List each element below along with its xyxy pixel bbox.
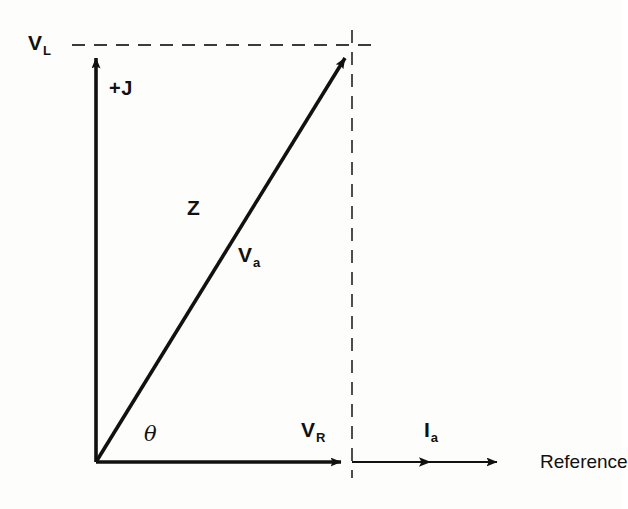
resultant-va-phasor (96, 58, 345, 462)
label-plus-j: +J (109, 78, 133, 98)
label-vl-subscript: L (43, 43, 51, 58)
label-theta: θ (144, 424, 157, 445)
label-vr-main: V (301, 418, 315, 441)
label-vr-subscript: R (316, 430, 325, 445)
label-va: Va (238, 244, 259, 265)
label-va-main: V (238, 243, 252, 266)
label-va-subscript: a (253, 255, 260, 270)
label-vl-main: V (28, 31, 42, 54)
label-ia-subscript: a (431, 430, 438, 445)
label-reference: Reference (540, 452, 628, 471)
label-vr: VR (301, 419, 324, 440)
label-z: Z (187, 197, 200, 218)
label-vl: VL (28, 32, 50, 53)
label-ia: Ia (424, 419, 437, 440)
label-ia-main: I (424, 418, 430, 441)
